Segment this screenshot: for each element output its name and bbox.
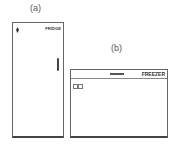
- freezer-lid-handle: [110, 73, 124, 75]
- fridge-brand-label: FRIDGE: [45, 26, 61, 31]
- freezer-brand-label: FREEZER: [142, 71, 165, 77]
- control-indicator-icon: [78, 84, 83, 89]
- thermostat-dial-icon: [16, 27, 19, 33]
- label-a: (a): [30, 3, 41, 13]
- fridge-illustration: FRIDGE: [12, 22, 64, 138]
- freezer-lid-edge: [71, 78, 167, 79]
- freezer-illustration: FREEZER: [70, 69, 168, 138]
- label-b: (b): [111, 43, 122, 53]
- fridge-door-handle: [57, 58, 59, 71]
- freezer-control-panel: [73, 84, 83, 89]
